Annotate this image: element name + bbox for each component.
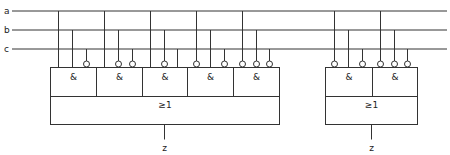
and-gate-label: &: [70, 72, 77, 82]
inverter-bubble-icon: [405, 61, 411, 67]
inverter-bubble-icon: [378, 61, 384, 67]
logic-diagram: abc &&&&&≥1z&&≥1z: [0, 0, 450, 155]
and-gate-label: &: [116, 72, 123, 82]
output-label: z: [369, 143, 374, 153]
block-right: &&≥1z: [326, 11, 418, 153]
and-gate-label: &: [207, 72, 214, 82]
input-label-a: a: [4, 6, 10, 16]
input-label-c: c: [4, 44, 9, 54]
inverter-bubble-icon: [222, 61, 228, 67]
and-gate-label: &: [161, 72, 168, 82]
block-left: &&&&&≥1z: [51, 11, 280, 153]
inverter-bubble-icon: [392, 61, 398, 67]
or-gate-label: ≥1: [158, 100, 171, 110]
inverter-bubble-icon: [130, 61, 136, 67]
output-label: z: [162, 143, 167, 153]
inverter-bubble-icon: [332, 61, 338, 67]
inverter-bubble-icon: [267, 61, 273, 67]
and-gate-label: &: [253, 72, 260, 82]
gate-blocks: &&&&&≥1z&&≥1z: [51, 11, 418, 153]
inverter-bubble-icon: [116, 61, 122, 67]
and-gate-label: &: [391, 72, 398, 82]
inverter-bubble-icon: [162, 61, 168, 67]
inverter-bubble-icon: [84, 61, 90, 67]
inverter-bubble-icon: [194, 61, 200, 67]
inverter-bubble-icon: [240, 61, 246, 67]
inverter-bubble-icon: [360, 61, 366, 67]
or-gate-label: ≥1: [365, 100, 378, 110]
and-gate-label: &: [345, 72, 352, 82]
input-label-b: b: [4, 25, 10, 35]
inverter-bubble-icon: [254, 61, 260, 67]
